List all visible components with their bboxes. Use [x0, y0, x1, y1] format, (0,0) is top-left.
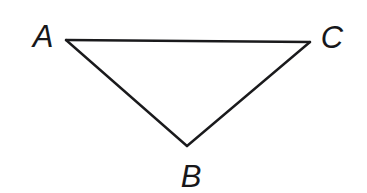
triangle-edge-ba	[66, 40, 187, 146]
vertex-label-c: C	[321, 20, 344, 55]
triangle-diagram-svg: A C B	[0, 0, 367, 193]
triangle-edge-ac	[66, 40, 310, 42]
triangle-edge-cb	[187, 42, 310, 146]
vertex-label-b: B	[181, 159, 202, 193]
vertex-label-a: A	[31, 19, 54, 54]
triangle-figure-canvas: A C B	[0, 0, 367, 193]
